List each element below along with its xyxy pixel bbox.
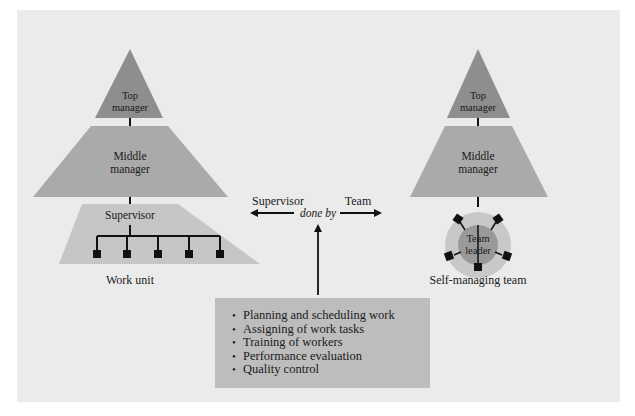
supervisory-tasks-box: Planning and scheduling work Assigning o… [215,298,430,388]
right-connector-middle-team [477,197,479,207]
right-top-line1: Top [448,90,508,102]
left-middle-line2: manager [100,163,160,176]
left-top-line2: manager [100,102,160,114]
work-unit-caption: Work unit [100,274,160,287]
team-leader-label: Team leader [458,233,498,257]
right-top-line2: manager [448,102,508,114]
done-by-label: done by [293,207,343,220]
left-middle-manager-label: Middle manager [100,150,160,176]
task-item: Planning and scheduling work [232,309,395,323]
self-managing-team-caption: Self-managing team [418,274,538,287]
right-top-manager-label: Top manager [448,90,508,114]
left-connector-middle-supervisor [129,197,131,204]
task-item: Quality control [232,363,395,377]
task-item: Assigning of work tasks [232,323,395,337]
right-connector-top-middle [477,118,479,126]
left-supervisor-label: Supervisor [90,209,170,222]
center-arrows [250,209,382,295]
task-item: Performance evaluation [232,350,395,364]
left-top-line1: Top [100,90,160,102]
left-connector-top-middle [129,118,131,126]
right-middle-line1: Middle [448,150,508,163]
left-middle-line1: Middle [100,150,160,163]
right-middle-manager-label: Middle manager [448,150,508,176]
task-item: Training of workers [232,336,395,350]
team-arrow-label: Team [340,195,376,208]
right-middle-line2: manager [448,163,508,176]
tasks-list: Planning and scheduling work Assigning o… [232,309,395,377]
left-top-manager-label: Top manager [100,90,160,114]
team-leader-line2: leader [458,245,498,257]
team-leader-line1: Team [458,233,498,245]
